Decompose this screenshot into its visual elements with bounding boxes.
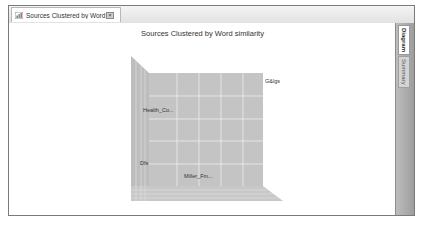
plot-left-wall bbox=[131, 56, 149, 201]
cluster-plot[interactable] bbox=[9, 23, 399, 217]
tab-sources-clustered[interactable]: Sources Clustered by Word si × bbox=[11, 7, 121, 22]
point-label[interactable]: Dfs bbox=[140, 160, 148, 166]
view-side-tabs: Diagram Summary bbox=[395, 23, 414, 215]
diagram-canvas: Sources Clustered by Word similarity bbox=[9, 23, 396, 215]
chart-icon bbox=[15, 12, 23, 19]
point-label[interactable]: G&lgs bbox=[265, 78, 280, 84]
plot-floor bbox=[131, 186, 283, 201]
editor-tab-bar: Sources Clustered by Word si × bbox=[9, 6, 414, 24]
cluster-window: Sources Clustered by Word si × Sources C… bbox=[8, 5, 415, 216]
point-label[interactable]: Health_Co... bbox=[143, 107, 174, 113]
plot-back-wall bbox=[149, 73, 263, 186]
tab-summary[interactable]: Summary bbox=[398, 56, 410, 88]
tab-label: Sources Clustered by Word si bbox=[26, 12, 106, 19]
tab-diagram[interactable]: Diagram bbox=[398, 25, 410, 55]
point-label[interactable]: Miller_Fm... bbox=[184, 173, 213, 179]
close-icon[interactable]: × bbox=[106, 12, 114, 19]
